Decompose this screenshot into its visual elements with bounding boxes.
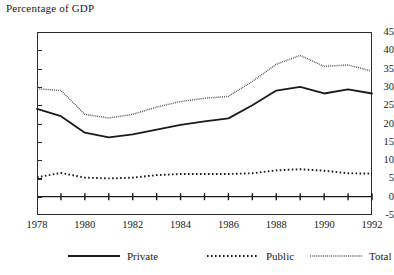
legend-swatch-fine-dotted — [310, 251, 362, 261]
legend-item-private[interactable]: Private — [68, 250, 158, 262]
legend-swatch-solid — [68, 251, 120, 261]
legend-item-total[interactable]: Total — [310, 250, 391, 262]
x-tick-label: 1978 — [17, 219, 57, 230]
legend-item-public[interactable]: Public — [207, 250, 294, 262]
x-tick-label: 1980 — [65, 219, 105, 230]
x-tick-label: 1988 — [256, 219, 296, 230]
chart-title: Percentage of GDP — [6, 2, 94, 14]
series-line-public — [37, 169, 372, 178]
x-tick-label: 1982 — [113, 219, 153, 230]
chart-figure: Percentage of GDP 454035302520151050-5 1… — [0, 0, 394, 275]
legend-label: Public — [266, 250, 294, 262]
series-layer — [37, 32, 372, 215]
x-tick-label: 1986 — [208, 219, 248, 230]
chart-legend: PrivatePublicTotal — [0, 250, 394, 270]
x-tick-label: 1984 — [161, 219, 201, 230]
series-line-total — [37, 55, 372, 118]
series-line-private — [37, 87, 372, 138]
legend-swatch-dotted — [207, 251, 259, 261]
legend-label: Total — [369, 250, 391, 262]
x-tick-label: 1990 — [304, 219, 344, 230]
legend-label: Private — [127, 250, 158, 262]
x-tick-label: 1992 — [352, 219, 392, 230]
